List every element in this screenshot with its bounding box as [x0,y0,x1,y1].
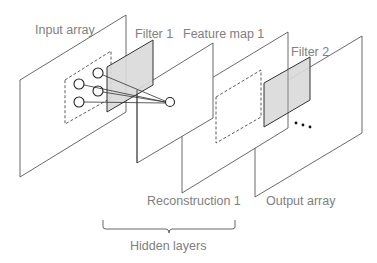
label-input-array: Input array [35,23,96,37]
convolutional-autoencoder-diagram: Input array Filter 1 Feature map 1 Filte… [0,0,377,263]
label-output-array: Output array [266,194,336,208]
label-filter-1: Filter 1 [135,27,173,41]
label-hidden-layers: Hidden layers [130,239,206,253]
label-filter-2: Filter 2 [291,45,329,59]
label-reconstruction-1: Reconstruction 1 [147,194,241,208]
hidden-layers-bracket [103,220,235,233]
label-feature-map-1: Feature map 1 [183,27,264,41]
